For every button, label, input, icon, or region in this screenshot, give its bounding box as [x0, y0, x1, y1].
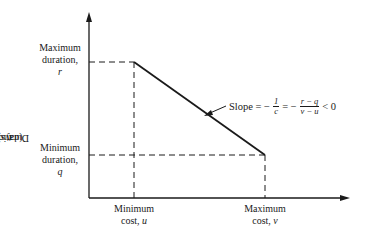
slope-inequality: < 0	[322, 101, 336, 112]
slope-equals: = −	[282, 101, 296, 112]
min-cost-line2: cost,	[121, 215, 142, 226]
min-duration-var: q	[36, 166, 84, 178]
max-duration-line1: Maximum	[36, 42, 84, 54]
y-axis-label: Duration, t (days)	[3, 88, 17, 188]
y-axis-arrow-icon	[86, 12, 92, 22]
min-cost-label: Minimum cost, u	[104, 203, 164, 227]
slope-text: Slope = −	[229, 101, 270, 112]
min-duration-label: Minimum duration, q	[36, 142, 84, 178]
slope-fraction-1: 1 c	[273, 97, 279, 116]
min-cost-var: u	[142, 215, 147, 226]
diagram-canvas	[0, 0, 372, 235]
slope-annotation: Slope = − 1 c = − r − q v − u < 0	[229, 97, 336, 116]
max-duration-var: r	[36, 66, 84, 78]
slope-fraction-2: r − q v − u	[300, 97, 320, 116]
fraction-1-denominator: c	[274, 107, 278, 116]
min-duration-line2: duration,	[36, 154, 84, 166]
max-duration-label: Maximum duration, r	[36, 42, 84, 78]
max-cost-line1: Maximum	[235, 203, 295, 215]
max-duration-line2: duration,	[36, 54, 84, 66]
min-duration-line1: Minimum	[36, 142, 84, 154]
min-cost-line1: Minimum	[104, 203, 164, 215]
fraction-2-denominator: v − u	[301, 107, 319, 116]
x-axis-arrow-icon	[340, 195, 350, 201]
y-axis-label-suffix: (days)	[0, 133, 23, 144]
max-cost-line2: cost,	[252, 215, 273, 226]
max-cost-var: v	[273, 215, 277, 226]
slope-pointer	[210, 106, 226, 113]
max-cost-label: Maximum cost, v	[235, 203, 295, 227]
